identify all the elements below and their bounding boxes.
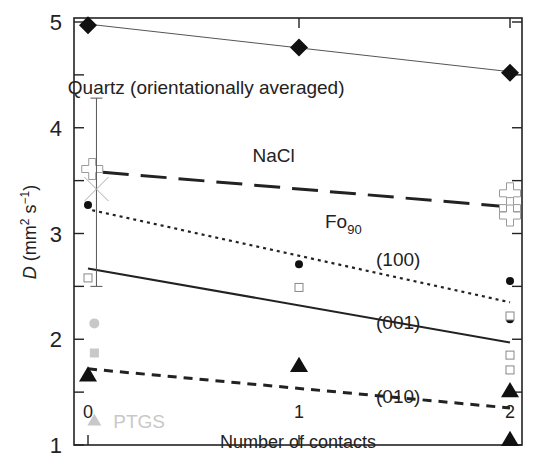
- x-axis-label: Number of contacts: [220, 432, 376, 452]
- y-label-unit: s: [20, 205, 40, 219]
- square-marker: [84, 274, 92, 282]
- annotation-label: Fo90: [325, 211, 362, 237]
- y-tick-label: 5: [50, 10, 62, 35]
- y-tick-label: 2: [50, 327, 62, 352]
- triangle-marker: [501, 382, 519, 397]
- circle-marker: [89, 318, 99, 328]
- y-axis-label: D (mm2 s−1): [18, 185, 40, 279]
- x-tick-label: 2: [505, 402, 515, 422]
- y-tick-label: 1: [50, 433, 62, 458]
- annotation-label: (001): [376, 312, 420, 333]
- annotation-text: (010): [376, 386, 420, 407]
- y-tick-label: 3: [50, 222, 62, 247]
- circle-marker: [84, 201, 92, 209]
- annotation-text: Fo: [325, 211, 347, 232]
- x-tick-label: 1: [294, 402, 304, 422]
- triangle-marker: [290, 357, 308, 372]
- circle-marker: [295, 260, 303, 268]
- annotation-text: Quartz (orientationally averaged): [68, 77, 345, 98]
- fit-line: [88, 268, 510, 342]
- diffusivity-chart: Quartz (orientationally averaged)NaClFo9…: [0, 0, 537, 464]
- fit-line: [103, 172, 510, 207]
- annotation-text: (100): [376, 249, 420, 270]
- annotation-label: (100): [376, 249, 420, 270]
- y-tick-label: 4: [50, 116, 62, 141]
- cross-marker: [82, 158, 103, 179]
- square-marker: [90, 349, 98, 357]
- x-tick-label: 0: [83, 402, 93, 422]
- annotation-label: NaCl: [253, 145, 295, 166]
- y-label-unit: (mm: [20, 225, 40, 266]
- diamond-marker: [501, 64, 519, 82]
- annotations: Quartz (orientationally averaged)NaClFo9…: [68, 77, 421, 432]
- circle-marker: [506, 277, 514, 285]
- annotation-subscript: 90: [347, 222, 361, 237]
- annotation-text: (001): [376, 312, 420, 333]
- y-label-unit: ): [20, 185, 40, 191]
- triangle-marker: [501, 431, 519, 446]
- diamond-marker: [290, 38, 308, 56]
- annotation-label: Quartz (orientationally averaged): [68, 77, 345, 98]
- y-label-sup: −1: [18, 190, 32, 204]
- annotation-text: PTGS: [113, 411, 165, 432]
- y-label-symbol: D: [20, 266, 40, 279]
- diamond-marker: [79, 16, 97, 34]
- square-marker: [506, 351, 514, 359]
- annotation-label: PTGS: [113, 411, 165, 432]
- square-marker: [295, 283, 303, 291]
- square-marker: [506, 312, 514, 320]
- square-marker: [506, 366, 514, 374]
- annotation-label: (010): [376, 386, 420, 407]
- annotation-text: NaCl: [253, 145, 295, 166]
